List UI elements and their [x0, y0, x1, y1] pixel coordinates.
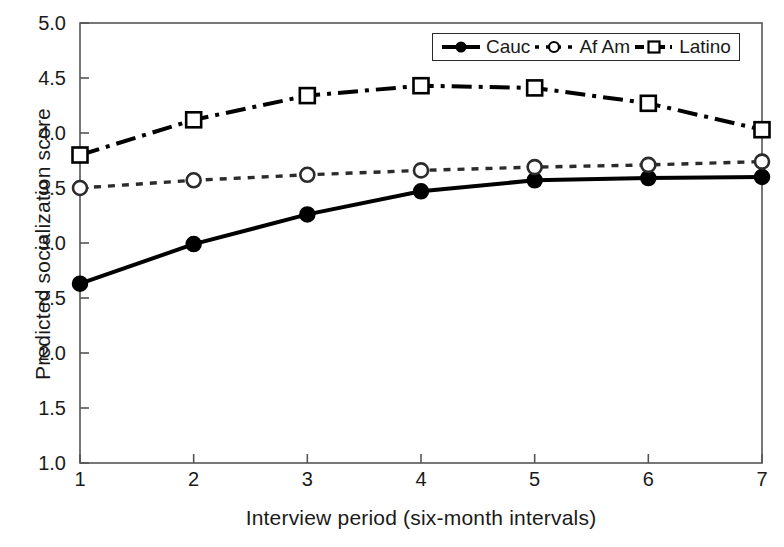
legend-label: Cauc	[486, 36, 530, 58]
data-point-latino	[73, 148, 88, 163]
legend-label: Af Am	[579, 36, 630, 58]
chart-legend: CaucAf AmLatino	[432, 33, 740, 61]
legend-marker-open-circle-icon	[534, 39, 574, 55]
legend-marker-filled-circle-icon	[441, 39, 481, 55]
legend-label: Latino	[679, 36, 731, 58]
data-point-cauc	[300, 207, 315, 222]
series-line-latino	[80, 86, 762, 155]
plot-area	[0, 0, 784, 547]
data-point-af-am	[73, 181, 87, 195]
legend-entry-cauc: Cauc	[441, 36, 530, 58]
data-point-cauc	[186, 237, 201, 252]
data-point-af-am	[641, 158, 655, 172]
data-point-af-am	[528, 160, 542, 174]
data-point-af-am	[755, 155, 769, 169]
legend-entry-latino: Latino	[634, 36, 731, 58]
data-point-cauc	[73, 276, 88, 291]
data-point-latino	[527, 80, 542, 95]
data-point-af-am	[300, 168, 314, 182]
data-point-latino	[186, 112, 201, 127]
data-point-cauc	[755, 170, 770, 185]
data-point-af-am	[414, 163, 428, 177]
data-point-latino	[300, 88, 315, 103]
data-point-af-am	[187, 173, 201, 187]
data-point-latino	[755, 122, 770, 137]
chart-figure: Predicted socialization score Interview …	[0, 0, 784, 547]
legend-entry-af-am: Af Am	[534, 36, 630, 58]
legend-marker-open-square-icon	[634, 39, 674, 55]
data-point-latino	[641, 96, 656, 111]
data-point-cauc	[414, 184, 429, 199]
data-point-latino	[414, 78, 429, 93]
